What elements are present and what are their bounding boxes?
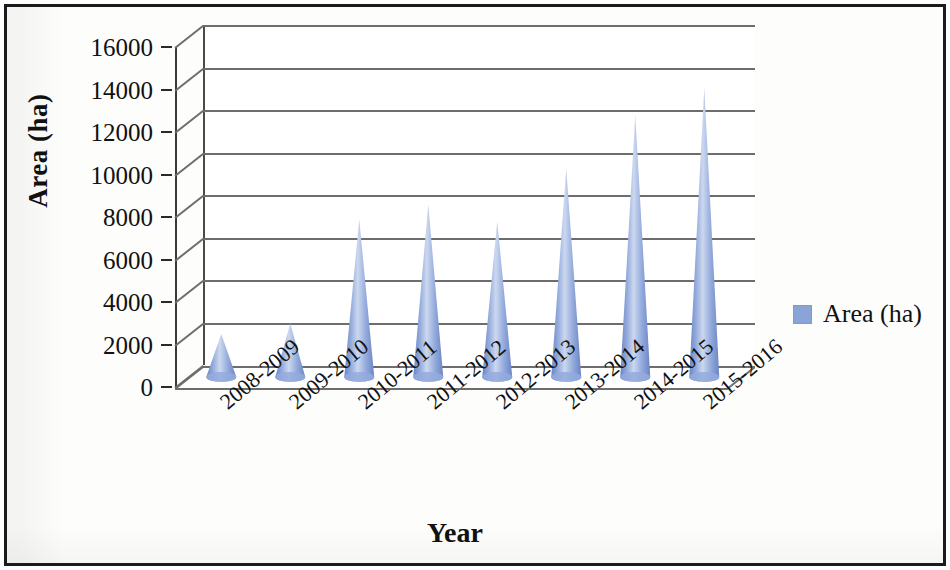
gridline [203,25,755,27]
x-tick-label: 2014-2015 [629,395,646,415]
y-tick-mark [161,174,172,176]
series-color-swatch [793,305,812,324]
y-axis-tick-labels: 0200040006000800010000120001400016000 [43,7,153,387]
gridline [203,280,755,282]
y-tick-mark [161,259,172,261]
x-tick-label: 2011-2012 [422,395,439,415]
y-tick-label: 8000 [43,205,153,230]
gridline [203,238,755,240]
y-tick-mark [161,386,172,388]
gridline [203,195,755,197]
y-tick-label: 10000 [43,162,153,187]
gridline-depth-connector [174,153,203,177]
gridline [203,68,755,70]
y-tick-label: 14000 [43,77,153,102]
gridline-depth-connector [174,68,203,92]
gridline-depth-connector [174,238,203,262]
x-tick-label: 2015-2016 [698,395,715,415]
gridline-depth-connector [174,25,203,49]
y-tick-label: 6000 [43,247,153,272]
gridline [203,323,755,325]
x-tick-label: 2013-2014 [560,395,577,415]
gridline [203,153,755,155]
y-tick-mark [161,89,172,91]
x-tick-label: 2012-2013 [491,395,508,415]
y-tick-label: 12000 [43,120,153,145]
gridline [203,110,755,112]
cone-chart: Area (ha) 020004000600080001000012000140… [7,7,943,563]
y-tick-label: 0 [43,375,153,400]
gridline-depth-connector [174,323,203,347]
y-tick-label: 4000 [43,290,153,315]
x-axis-title: Year [275,517,635,549]
y-tick-label: 16000 [43,35,153,60]
y-tick-mark [161,46,172,48]
y-tick-mark [161,301,172,303]
x-tick-label: 2010-2011 [353,395,370,415]
x-axis-tick-labels: 2008-20092009-20102010-20112011-20122012… [175,389,775,509]
chart-page-frame: Area (ha) 020004000600080001000012000140… [4,4,946,566]
gridline-depth-connector [174,280,203,304]
y-tick-label: 2000 [43,332,153,357]
plot-area [175,25,755,387]
y-tick-mark [161,131,172,133]
x-tick-label: 2009-2010 [284,395,301,415]
gridline-depth-connector [174,110,203,134]
y-tick-mark [161,216,172,218]
gridline-depth-connector [174,195,203,219]
x-tick-label: 2008-2009 [215,395,232,415]
legend-label: Area (ha) [823,299,922,329]
y-tick-mark [161,344,172,346]
chart-legend: Area (ha) [793,299,922,329]
